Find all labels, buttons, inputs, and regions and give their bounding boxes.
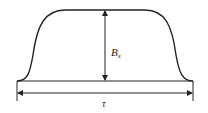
- width-label: τ: [102, 98, 106, 109]
- pulse-diagram: Bx τ: [0, 0, 208, 113]
- amplitude-label: Bx: [111, 46, 122, 60]
